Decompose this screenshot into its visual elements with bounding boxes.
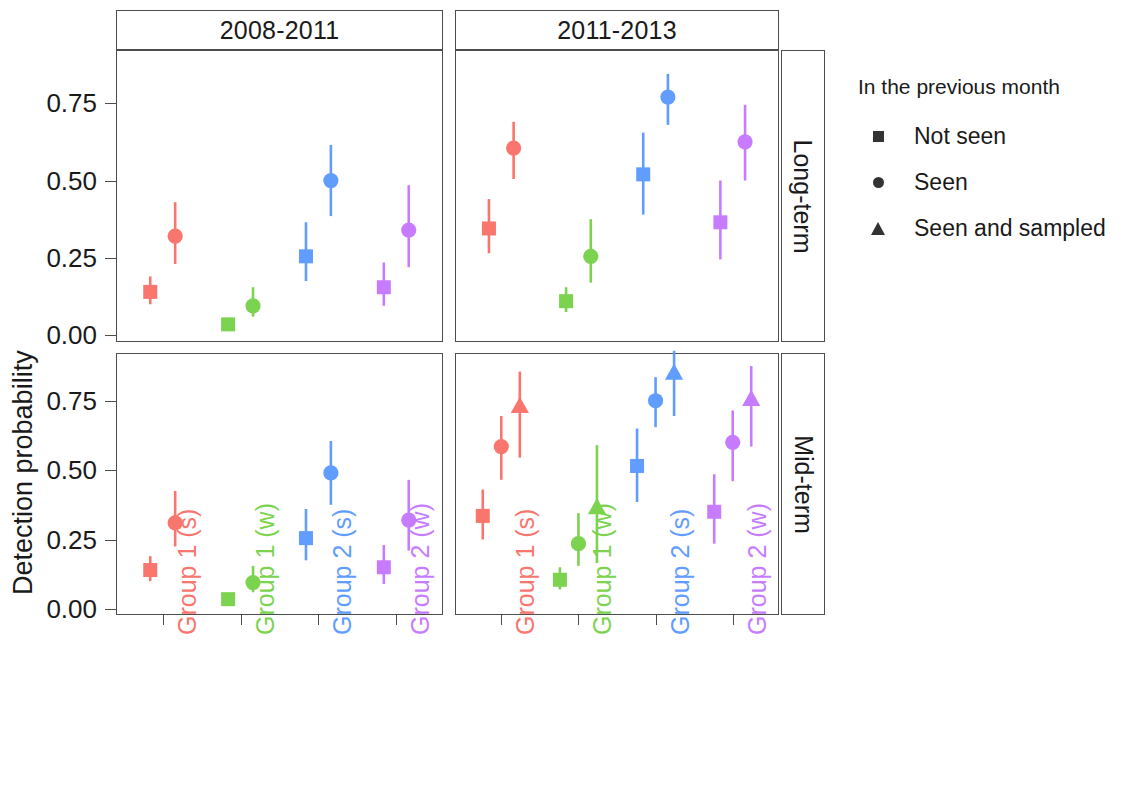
y-axis-tick-label: 0.00 — [0, 320, 97, 351]
marker-circle — [168, 229, 183, 244]
marker-square — [636, 167, 650, 181]
facet-strip-row-mid-term: Mid-term — [781, 353, 825, 615]
marker-square — [559, 294, 573, 308]
y-axis-tick-mark — [105, 103, 116, 104]
marker-square — [221, 317, 235, 331]
marker-square — [630, 459, 644, 473]
x-axis-tick-mark — [396, 615, 397, 625]
marker-circle — [323, 465, 338, 480]
x-axis-tick-mark — [163, 615, 164, 625]
panel-data-layer — [455, 50, 779, 342]
marker-circle — [245, 575, 260, 590]
y-axis-tick-mark — [105, 401, 116, 402]
marker-circle — [571, 536, 586, 551]
marker-circle — [660, 89, 675, 104]
y-axis-title: Detection probability — [8, 350, 39, 595]
marker-square — [143, 285, 157, 299]
legend-item-not-seen[interactable]: Not seen — [858, 113, 1106, 159]
marker-circle — [725, 435, 740, 450]
y-axis-tick-mark — [105, 609, 116, 610]
legend-item-seen-and-sampled[interactable]: Seen and sampled — [858, 205, 1106, 251]
panel-data-layer — [116, 50, 443, 342]
marker-circle — [401, 222, 416, 237]
x-axis-tick-mark — [318, 615, 319, 625]
marker-square — [713, 215, 727, 229]
facet-strip-label: Mid-term — [789, 435, 818, 534]
legend-title: In the previous month — [858, 75, 1106, 99]
circle-icon — [858, 177, 898, 188]
facet-strip-column-2008-2011: 2008-2011 — [116, 10, 443, 50]
marker-square — [221, 592, 235, 606]
marker-square — [377, 280, 391, 294]
legend: In the previous month Not seen Seen Seen… — [858, 75, 1106, 251]
marker-circle — [494, 439, 509, 454]
legend-item-seen[interactable]: Seen — [858, 159, 1106, 205]
x-axis-tick-mark — [733, 615, 734, 625]
x-axis-tick-mark — [241, 615, 242, 625]
x-axis-tick-mark — [501, 615, 502, 625]
chart-root: Detection probability 2008-2011 2011-201… — [0, 0, 1148, 810]
facet-strip-label: 2011-2013 — [557, 16, 677, 45]
y-axis-tick-label: 0.50 — [0, 165, 97, 196]
marker-square — [476, 509, 490, 523]
marker-triangle — [742, 390, 760, 406]
marker-triangle — [588, 498, 606, 514]
facet-strip-row-long-term: Long-term — [781, 50, 825, 342]
y-axis-tick-mark — [105, 470, 116, 471]
marker-triangle — [511, 397, 529, 413]
marker-triangle — [665, 363, 683, 379]
y-axis-tick-label: 0.00 — [0, 593, 97, 624]
marker-circle — [323, 173, 338, 188]
triangle-icon — [858, 222, 898, 235]
marker-circle — [168, 515, 183, 530]
y-axis-tick-mark — [105, 540, 116, 541]
square-icon — [858, 131, 898, 142]
facet-strip-label: 2008-2011 — [220, 16, 340, 45]
y-axis-tick-mark — [105, 258, 116, 259]
marker-circle — [583, 249, 598, 264]
x-axis-tick-mark — [578, 615, 579, 625]
marker-square — [299, 531, 313, 545]
y-axis-tick-mark — [105, 335, 116, 336]
legend-item-label: Seen — [914, 169, 968, 196]
marker-square — [482, 221, 496, 235]
legend-item-label: Seen and sampled — [914, 215, 1106, 242]
marker-circle — [648, 393, 663, 408]
legend-item-label: Not seen — [914, 123, 1006, 150]
facet-strip-column-2011-2013: 2011-2013 — [455, 10, 779, 50]
marker-square — [553, 573, 567, 587]
x-axis-tick-mark — [656, 615, 657, 625]
panel-data-layer — [116, 353, 443, 615]
marker-square — [143, 563, 157, 577]
panel-data-layer — [455, 353, 779, 615]
marker-circle — [506, 140, 521, 155]
y-axis-tick-label: 0.25 — [0, 242, 97, 273]
y-axis-tick-mark — [105, 181, 116, 182]
y-axis-tick-label: 0.75 — [0, 88, 97, 119]
marker-circle — [737, 134, 752, 149]
marker-square — [707, 505, 721, 519]
marker-circle — [401, 512, 416, 527]
marker-circle — [245, 298, 260, 313]
marker-square — [377, 560, 391, 574]
facet-strip-label: Long-term — [789, 139, 818, 253]
marker-square — [299, 249, 313, 263]
